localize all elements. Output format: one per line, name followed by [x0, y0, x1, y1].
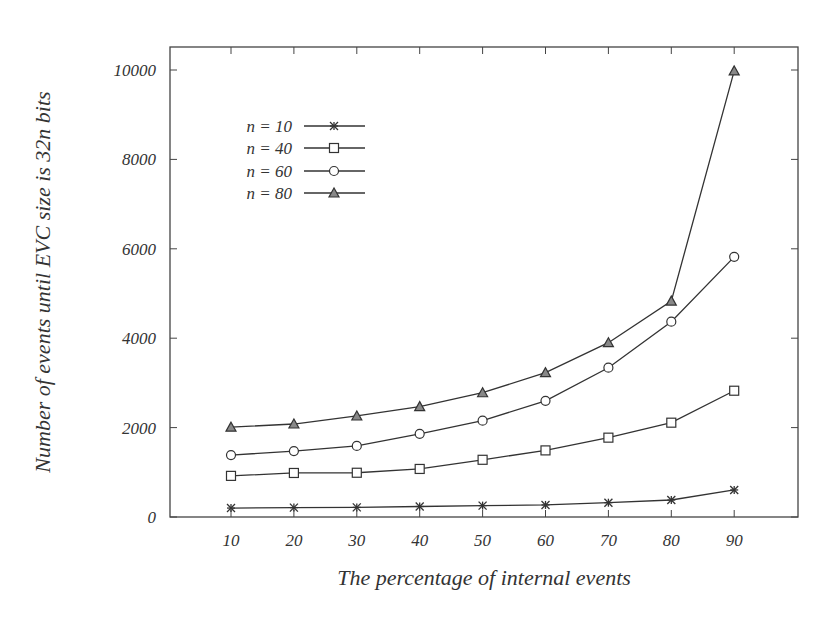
- square-marker: [667, 418, 676, 427]
- circle-marker: [478, 416, 487, 425]
- y-tick-label: 8000: [122, 150, 157, 169]
- legend-label: n = 10: [247, 117, 293, 136]
- x-tick-label: 50: [474, 531, 492, 550]
- series-line: [231, 71, 734, 427]
- square-marker: [541, 446, 550, 455]
- x-axis-label: The percentage of internal events: [337, 565, 631, 590]
- triangle-marker: [603, 338, 613, 347]
- square-marker: [478, 455, 487, 464]
- circle-marker: [289, 447, 298, 456]
- circle-marker: [415, 429, 424, 438]
- x-tick-label: 60: [537, 531, 555, 550]
- series-triangle: [226, 66, 739, 431]
- star-marker: [604, 499, 612, 507]
- triangle-marker: [666, 296, 676, 305]
- circle-marker: [227, 451, 236, 460]
- legend-label: n = 40: [247, 139, 293, 158]
- legend-item: n = 80: [247, 184, 365, 203]
- x-tick-label: 90: [726, 531, 744, 550]
- x-tick-label: 80: [663, 531, 681, 550]
- legend: n = 10n = 40n = 60n = 80: [247, 117, 365, 203]
- x-tick-label: 70: [600, 531, 618, 550]
- y-axis-ticks: 0200040006000800010000: [114, 61, 799, 527]
- triangle-marker: [541, 368, 551, 377]
- star-marker: [542, 501, 550, 509]
- series-layer: [226, 66, 739, 512]
- x-tick-label: 10: [223, 531, 241, 550]
- star-marker: [353, 503, 361, 511]
- star-marker: [479, 502, 487, 510]
- star-marker: [730, 486, 738, 494]
- square-marker: [227, 471, 236, 480]
- star-marker: [290, 504, 298, 512]
- circle-marker: [541, 396, 550, 405]
- y-tick-label: 10000: [114, 61, 157, 80]
- x-tick-label: 40: [411, 531, 429, 550]
- legend-label: n = 80: [247, 184, 293, 203]
- series-circle: [227, 252, 739, 459]
- legend-item: n = 40: [247, 139, 365, 158]
- line-chart: 0200040006000800010000 10203040506070809…: [0, 0, 830, 619]
- circle-marker: [604, 363, 613, 372]
- x-tick-label: 30: [347, 531, 366, 550]
- legend-item: n = 60: [247, 162, 365, 181]
- star-marker: [227, 504, 235, 512]
- legend-square-icon: [330, 144, 339, 153]
- series-star: [227, 486, 738, 512]
- series-square: [227, 386, 739, 480]
- square-marker: [604, 433, 613, 442]
- y-tick-label: 0: [148, 508, 157, 527]
- circle-marker: [667, 317, 676, 326]
- square-marker: [352, 468, 361, 477]
- triangle-marker: [729, 66, 739, 75]
- legend-circle-icon: [330, 167, 339, 176]
- legend-item: n = 10: [247, 117, 365, 136]
- x-tick-label: 20: [285, 531, 303, 550]
- y-tick-label: 6000: [122, 240, 157, 259]
- square-marker: [415, 464, 424, 473]
- y-tick-label: 2000: [122, 419, 157, 438]
- legend-label: n = 60: [247, 162, 293, 181]
- star-marker: [416, 502, 424, 510]
- y-axis-label: Number of events until EVC size is 32n b…: [30, 91, 55, 473]
- legend-star-icon: [330, 122, 338, 130]
- circle-marker: [352, 441, 361, 450]
- star-marker: [667, 496, 675, 504]
- square-marker: [289, 468, 298, 477]
- y-tick-label: 4000: [122, 329, 157, 348]
- x-axis-ticks: 102030405060708090: [223, 47, 744, 550]
- circle-marker: [730, 252, 739, 261]
- square-marker: [730, 386, 739, 395]
